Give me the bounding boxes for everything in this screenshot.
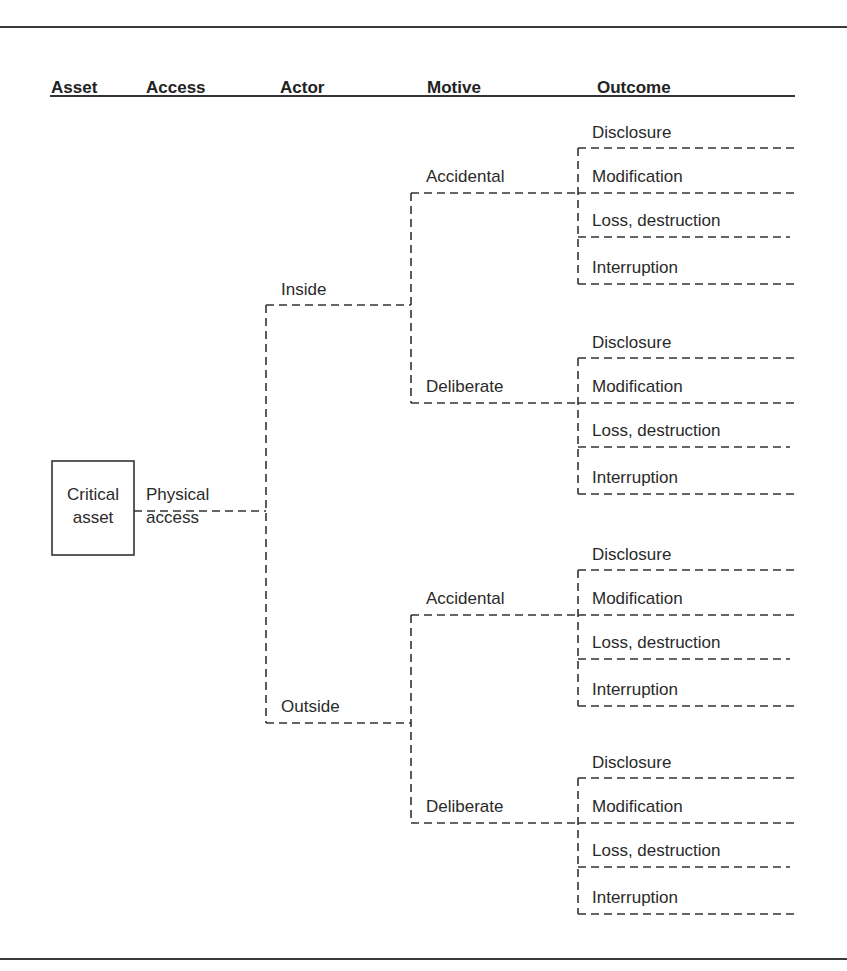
outcome-group: Disclosure Modification Loss, destructio… bbox=[578, 545, 795, 706]
outcome-label: Disclosure bbox=[592, 545, 671, 564]
asset-label-line2: asset bbox=[73, 508, 114, 527]
outcome-label: Modification bbox=[592, 797, 683, 816]
attack-tree-diagram: Critical asset Physical access Inside Ou… bbox=[0, 0, 847, 971]
actor-inside: Inside bbox=[281, 280, 326, 299]
bottom-rule bbox=[0, 958, 847, 960]
outcome-label: Modification bbox=[592, 167, 683, 186]
outcome-label: Loss, destruction bbox=[592, 211, 721, 230]
motive-label: Deliberate bbox=[426, 797, 504, 816]
outcome-label: Interruption bbox=[592, 468, 678, 487]
outcome-group: Disclosure Modification Loss, destructio… bbox=[578, 753, 795, 914]
outcome-label: Disclosure bbox=[592, 123, 671, 142]
outcome-label: Interruption bbox=[592, 680, 678, 699]
outcome-label: Modification bbox=[592, 589, 683, 608]
outcome-label: Interruption bbox=[592, 258, 678, 277]
outcome-group: Disclosure Modification Loss, destructio… bbox=[578, 123, 795, 284]
outcome-label: Disclosure bbox=[592, 333, 671, 352]
outcome-label: Modification bbox=[592, 377, 683, 396]
motive-label: Accidental bbox=[426, 167, 504, 186]
outcome-label: Loss, destruction bbox=[592, 841, 721, 860]
outcome-group: Disclosure Modification Loss, destructio… bbox=[578, 333, 795, 494]
outcome-label: Interruption bbox=[592, 888, 678, 907]
motive-label: Deliberate bbox=[426, 377, 504, 396]
outcome-label: Disclosure bbox=[592, 753, 671, 772]
outcome-label: Loss, destruction bbox=[592, 421, 721, 440]
access-label-line2: access bbox=[146, 508, 199, 527]
access-label-line1: Physical bbox=[146, 485, 209, 504]
actor-outside: Outside bbox=[281, 697, 340, 716]
motive-label: Accidental bbox=[426, 589, 504, 608]
outcome-label: Loss, destruction bbox=[592, 633, 721, 652]
asset-label-line1: Critical bbox=[67, 485, 119, 504]
